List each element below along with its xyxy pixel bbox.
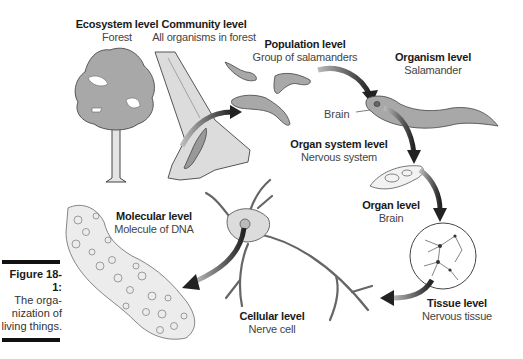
level-title: Organism level	[388, 51, 478, 64]
level-title: Cellular level	[232, 310, 312, 323]
level-community: Community level All organisms in forest	[148, 18, 260, 44]
nerve-cell-icon	[206, 180, 372, 320]
caption-rule-bottom	[2, 338, 60, 342]
level-molecular: Molecular level Molecule of DNA	[106, 210, 202, 236]
level-title: Tissue level	[412, 297, 502, 310]
brain-pointer-label: Brain	[324, 108, 350, 120]
level-subtitle: Brain	[356, 212, 426, 225]
level-subtitle: Nervous system	[284, 151, 394, 164]
level-subtitle: All organisms in forest	[148, 31, 260, 44]
salamander-group-icon	[225, 62, 310, 125]
caption-line: nization of	[0, 307, 62, 320]
nervous-tissue-icon	[410, 223, 476, 289]
caption-line: living things.	[0, 320, 62, 333]
level-tissue: Tissue level Nervous tissue	[412, 297, 502, 323]
salamander-icon	[366, 96, 498, 128]
level-subtitle: Molecule of DNA	[106, 223, 202, 236]
level-title: Organ system level	[284, 138, 394, 151]
level-subtitle: Nervous tissue	[412, 310, 502, 323]
level-cellular: Cellular level Nerve cell	[232, 310, 312, 336]
level-organ-system: Organ system level Nervous system	[284, 138, 394, 164]
caption-rule-top	[2, 260, 60, 264]
level-organ: Organ level Brain	[356, 199, 426, 225]
level-title: Organ level	[356, 199, 426, 212]
level-subtitle: Group of salamanders	[250, 51, 360, 64]
caption-line: The orga-	[0, 294, 62, 307]
level-title: Population level	[250, 38, 360, 51]
level-title: Molecular level	[106, 210, 202, 223]
level-subtitle: Salamander	[388, 64, 478, 77]
figure-number: Figure 18-1:	[0, 268, 62, 294]
tree-icon	[75, 48, 154, 182]
brain-icon	[370, 166, 423, 189]
level-organism: Organism level Salamander	[388, 51, 478, 77]
level-title: Community level	[148, 18, 260, 31]
figure-caption: Figure 18-1: The orga- nization of livin…	[0, 268, 62, 333]
level-population: Population level Group of salamanders	[250, 38, 360, 64]
level-subtitle: Nerve cell	[232, 323, 312, 336]
